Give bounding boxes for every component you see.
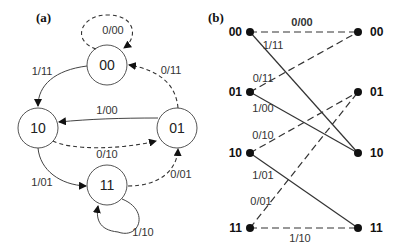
edge-01-00-label: 0/11 xyxy=(161,64,182,76)
right-node-01: 01 xyxy=(354,85,384,99)
branch-10-11 xyxy=(250,153,358,228)
svg-text:00: 00 xyxy=(370,25,384,39)
panel-b: (b) 0/00 1/11 0/11 1/00 0/10 1/01 0/01 1… xyxy=(208,10,384,244)
svg-text:01: 01 xyxy=(370,85,384,99)
state-10-label: 10 xyxy=(30,120,46,136)
branch-00-10-label: 1/11 xyxy=(263,39,284,51)
figure: (a) 00 10 01 11 0/00 1/11 0/11 1/00 xyxy=(0,0,402,252)
svg-text:11: 11 xyxy=(370,221,383,235)
edge-00-10-label: 1/11 xyxy=(32,65,53,77)
branch-10-11-label: 1/01 xyxy=(252,169,273,181)
left-node-01: 01 xyxy=(229,85,254,99)
state-00: 00 xyxy=(87,45,127,85)
edge-01-10 xyxy=(59,118,158,122)
panel-a: (a) 00 10 01 11 0/00 1/11 0/11 1/00 xyxy=(18,10,197,238)
branch-11-01-label: 0/01 xyxy=(250,195,271,207)
state-11: 11 xyxy=(87,165,127,205)
svg-text:10: 10 xyxy=(370,146,384,160)
state-01: 01 xyxy=(157,108,197,148)
left-node-10: 10 xyxy=(229,146,254,160)
state-00-label: 00 xyxy=(99,57,115,73)
panel-a-label: (a) xyxy=(36,10,51,25)
left-node-00: 00 xyxy=(229,25,254,39)
edge-11-01-label: 0/01 xyxy=(170,168,191,180)
edge-01-10-label: 1/00 xyxy=(96,104,117,116)
svg-text:11: 11 xyxy=(229,221,242,235)
panel-b-label: (b) xyxy=(208,10,224,25)
branch-01-10-label: 1/00 xyxy=(252,102,273,114)
svg-text:00: 00 xyxy=(229,25,243,39)
state-01-label: 01 xyxy=(169,120,185,136)
right-node-11: 11 xyxy=(354,221,383,235)
edge-10-11-label: 1/01 xyxy=(31,176,52,188)
branch-00-00-label: 0/00 xyxy=(291,16,312,28)
edge-10-01 xyxy=(53,141,156,148)
branch-10-01-label: 0/10 xyxy=(252,129,273,141)
svg-text:10: 10 xyxy=(229,146,243,160)
right-node-10: 10 xyxy=(354,146,384,160)
left-node-11: 11 xyxy=(229,221,254,235)
right-node-00: 00 xyxy=(354,25,384,39)
branch-01-00-label: 0/11 xyxy=(253,72,274,84)
edge-00-00-label: 0/00 xyxy=(102,24,123,36)
state-10: 10 xyxy=(18,108,58,148)
branch-11-11-label: 1/10 xyxy=(289,232,310,244)
state-11-label: 11 xyxy=(100,177,115,193)
svg-text:01: 01 xyxy=(229,85,243,99)
edge-11-11-label: 1/10 xyxy=(132,226,153,238)
edge-10-01-label: 0/10 xyxy=(96,148,117,160)
